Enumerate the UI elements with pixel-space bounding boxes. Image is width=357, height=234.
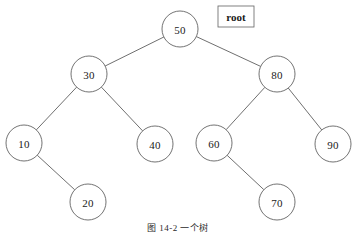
node-label: 50 <box>174 24 186 36</box>
tree-node[interactable]: 80 <box>259 56 295 92</box>
tree-node[interactable]: 60 <box>196 125 232 161</box>
tree-edge <box>196 37 260 67</box>
root-label-text: root <box>226 11 246 23</box>
node-label: 20 <box>82 197 94 209</box>
tree-edge <box>227 155 264 189</box>
tree-figure: 503080104060902070 root 图 14-2 一个树 <box>0 0 357 234</box>
tree-canvas: 503080104060902070 root 图 14-2 一个树 <box>0 0 357 234</box>
tree-node[interactable]: 90 <box>315 126 351 162</box>
node-label: 90 <box>327 139 339 151</box>
tree-edge <box>101 87 142 131</box>
node-label: 80 <box>271 69 283 81</box>
tree-node[interactable]: 70 <box>259 184 295 220</box>
tree-edge <box>37 155 75 190</box>
tree-node[interactable]: 40 <box>137 126 173 162</box>
tree-node[interactable]: 10 <box>6 125 42 161</box>
node-label: 30 <box>83 69 95 81</box>
node-label: 70 <box>271 197 283 209</box>
tree-edge <box>105 37 164 66</box>
tree-node[interactable]: 50 <box>162 11 198 47</box>
tree-node[interactable]: 30 <box>71 56 107 92</box>
tree-edge <box>288 88 322 130</box>
node-label: 60 <box>208 138 220 150</box>
figure-caption: 图 14-2 一个树 <box>147 222 209 233</box>
node-layer: 503080104060902070 <box>6 11 351 220</box>
tree-node[interactable]: 20 <box>70 184 106 220</box>
node-label: 10 <box>18 138 30 150</box>
tree-edge <box>226 87 265 129</box>
tree-edge <box>36 87 76 130</box>
node-label: 40 <box>149 139 161 151</box>
root-marker: root <box>218 6 254 27</box>
